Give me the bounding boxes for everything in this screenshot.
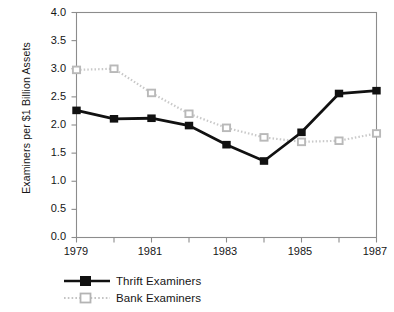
data-point-thrift-examiners-1982 (185, 122, 193, 130)
plot-area (0, 0, 394, 312)
chart-legend: Thrift Examiners Bank Examiners (63, 272, 201, 306)
data-point-bank-examiners-1986 (335, 137, 342, 144)
data-point-bank-examiners-1987 (373, 130, 380, 137)
data-series-layer (72, 65, 380, 164)
legend-swatch-bank-examiners (63, 291, 111, 305)
data-point-bank-examiners-1983 (223, 125, 230, 132)
data-point-thrift-examiners-1984 (260, 157, 268, 165)
legend-item-thrift-examiners: Thrift Examiners (63, 272, 201, 289)
legend-label-thrift-examiners: Thrift Examiners (116, 275, 201, 287)
legend-item-bank-examiners: Bank Examiners (63, 289, 201, 306)
data-point-thrift-examiners-1979 (72, 107, 80, 115)
data-point-thrift-examiners-1986 (335, 90, 343, 98)
legend-swatch-thrift-examiners (63, 274, 111, 288)
legend-label-bank-examiners: Bank Examiners (116, 292, 201, 304)
data-point-bank-examiners-1980 (110, 65, 117, 72)
data-point-thrift-examiners-1987 (372, 87, 380, 95)
data-point-thrift-examiners-1985 (297, 129, 305, 137)
data-point-bank-examiners-1982 (185, 110, 192, 117)
data-point-bank-examiners-1979 (73, 67, 80, 74)
data-point-thrift-examiners-1980 (110, 115, 118, 123)
data-point-thrift-examiners-1981 (147, 114, 155, 122)
data-point-bank-examiners-1984 (260, 134, 267, 141)
data-point-bank-examiners-1985 (298, 139, 305, 146)
data-point-bank-examiners-1981 (148, 90, 155, 97)
data-point-thrift-examiners-1983 (222, 141, 230, 149)
chart-figure: Examiners per $1 Billion Assets 4.0 3.5 … (0, 0, 394, 312)
